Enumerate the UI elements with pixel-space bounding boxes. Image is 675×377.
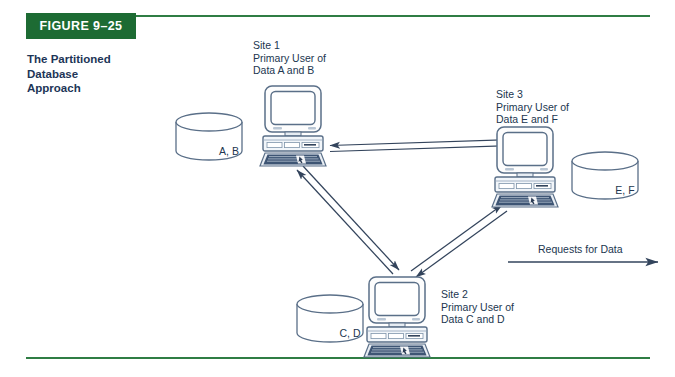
site-2-name: Site 2 <box>441 288 514 301</box>
site-2-role-line-1: Primary User of <box>441 301 514 314</box>
site-1-role-line-1: Primary User of <box>253 52 326 65</box>
database-label-site1: A, B <box>196 145 262 157</box>
site-1-role-line-2: Data A and B <box>253 64 326 77</box>
network-diagram <box>0 0 675 377</box>
site-3-name: Site 3 <box>496 88 569 101</box>
site-3-label-group: Site 3 Primary User of Data E and F <box>496 88 569 126</box>
legend-requests-for-data-label: Requests for Data <box>538 243 623 255</box>
site-1-name: Site 1 <box>253 39 326 52</box>
computer-site2 <box>364 277 430 357</box>
connection-site1-site3 <box>330 140 512 152</box>
connection-site1-site2 <box>297 166 399 274</box>
site-3-role-line-2: Data E and F <box>496 113 569 126</box>
site-1-label-group: Site 1 Primary User of Data A and B <box>253 39 326 77</box>
connection-site2-site3 <box>411 205 507 277</box>
site-2-role-line-2: Data C and D <box>441 313 514 326</box>
computer-site1 <box>260 86 326 166</box>
site-2-label-group: Site 2 Primary User of Data C and D <box>441 288 514 326</box>
figure-container: FIGURE 9–25 The Partitioned Database App… <box>0 0 675 377</box>
database-label-site3: E, F <box>592 184 658 196</box>
site-3-role-line-1: Primary User of <box>496 101 569 114</box>
computer-site3 <box>492 127 558 207</box>
database-label-site2: C, D <box>317 327 383 339</box>
